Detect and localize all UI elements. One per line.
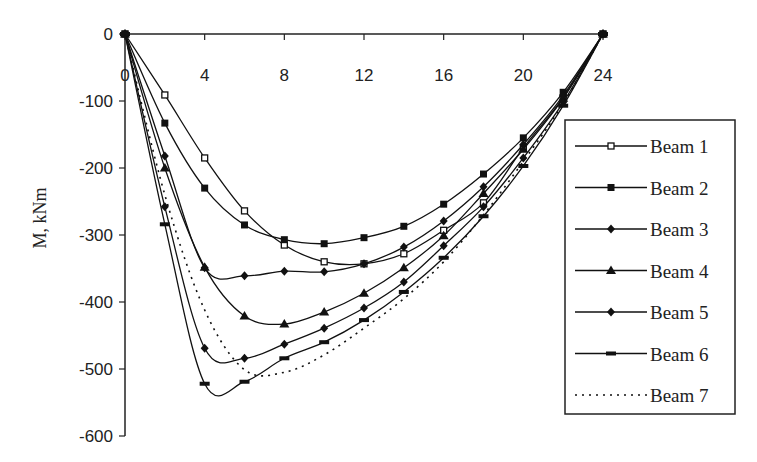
x-tick-label: 12 bbox=[355, 66, 374, 85]
series-beam-2 bbox=[122, 31, 607, 248]
y-axis-title: M, kNm bbox=[30, 187, 50, 248]
axes: 0-100-200-300-400-500-60004812162024M, k… bbox=[30, 25, 612, 446]
y-tick-label: -300 bbox=[79, 226, 113, 245]
legend-label: Beam 4 bbox=[650, 261, 709, 282]
legend-label: Beam 7 bbox=[650, 385, 709, 406]
legend: Beam 1Beam 2Beam 3Beam 4Beam 5Beam 6Beam… bbox=[565, 120, 735, 414]
legend-label: Beam 1 bbox=[650, 136, 709, 157]
x-tick-label: 16 bbox=[434, 66, 453, 85]
moment-chart: 0-100-200-300-400-500-60004812162024M, k… bbox=[0, 0, 757, 462]
y-tick-label: -500 bbox=[79, 360, 113, 379]
legend-label: Beam 6 bbox=[650, 344, 709, 365]
legend-label: Beam 2 bbox=[650, 178, 709, 199]
legend-label: Beam 3 bbox=[650, 219, 709, 240]
y-tick-label: -400 bbox=[79, 293, 113, 312]
y-tick-label: -600 bbox=[79, 427, 113, 446]
series-beam-6 bbox=[120, 32, 608, 396]
y-tick-label: 0 bbox=[104, 25, 113, 44]
x-tick-label: 24 bbox=[594, 66, 613, 85]
series-beam-7 bbox=[125, 34, 603, 376]
x-tick-label: 8 bbox=[280, 66, 289, 85]
x-tick-label: 0 bbox=[120, 66, 129, 85]
legend-label: Beam 5 bbox=[650, 302, 709, 323]
x-tick-label: 4 bbox=[200, 66, 209, 85]
y-tick-label: -100 bbox=[79, 92, 113, 111]
x-tick-label: 20 bbox=[514, 66, 533, 85]
y-tick-label: -200 bbox=[79, 159, 113, 178]
